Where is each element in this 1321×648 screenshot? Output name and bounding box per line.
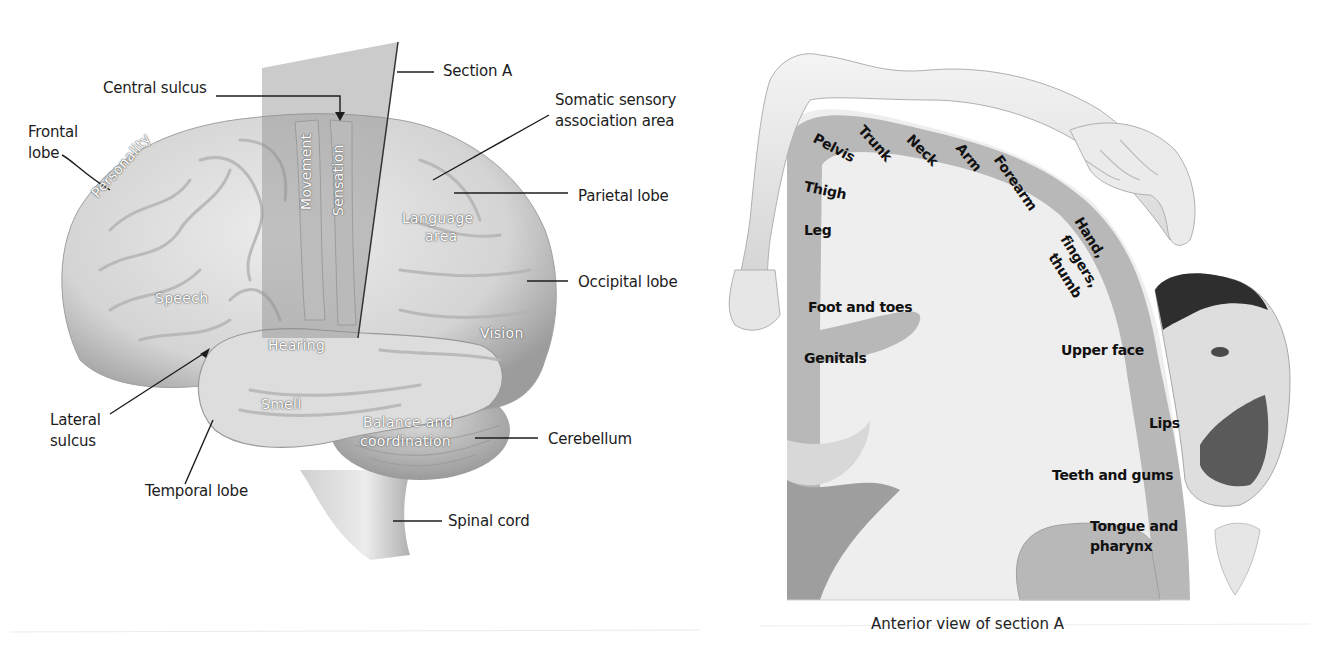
- homunculus-tongue-line2: pharynx: [1090, 538, 1152, 554]
- region-language-line2: area: [425, 228, 457, 244]
- region-speech: Speech: [155, 290, 208, 306]
- label-lateral-sulcus-line1: Lateral: [50, 411, 101, 429]
- label-cerebellum: Cerebellum: [548, 430, 632, 448]
- label-occipital-lobe: Occipital lobe: [578, 273, 677, 291]
- homunculus-foot-and-toes: Foot and toes: [808, 299, 912, 315]
- label-somatic-sensory-line1: Somatic sensory: [555, 91, 676, 109]
- homunculus-upper-face: Upper face: [1061, 342, 1144, 358]
- figure-caption: Anterior view of section A: [871, 615, 1064, 633]
- region-movement: Movement: [298, 133, 314, 210]
- label-central-sulcus: Central sulcus: [103, 79, 207, 97]
- label-frontal-lobe-line2: lobe: [28, 144, 59, 162]
- region-smell: Smell: [261, 396, 301, 412]
- label-lateral-sulcus-line2: sulcus: [50, 432, 96, 450]
- homunculus-teeth-and-gums: Teeth and gums: [1052, 467, 1173, 483]
- homunculus-genitals: Genitals: [804, 350, 867, 366]
- label-frontal-lobe-line1: Frontal: [28, 123, 78, 141]
- region-language-line1: Language: [402, 210, 474, 226]
- label-temporal-lobe: Temporal lobe: [145, 482, 248, 500]
- region-balance-line1: Balance and: [363, 414, 453, 430]
- label-somatic-sensory-line2: association area: [555, 112, 674, 130]
- homunculus-tongue-line1: Tongue and: [1090, 518, 1178, 534]
- region-balance-line2: coordination: [360, 433, 451, 449]
- region-vision: Vision: [480, 325, 524, 341]
- brain-diagram-figure: Central sulcus Section A Somatic sensory…: [0, 0, 1321, 648]
- region-hearing: Hearing: [268, 337, 325, 353]
- label-section-a: Section A: [443, 62, 512, 80]
- region-sensation: Sensation: [330, 144, 346, 216]
- label-parietal-lobe: Parietal lobe: [578, 187, 669, 205]
- label-spinal-cord: Spinal cord: [448, 512, 530, 530]
- homunculus-lips: Lips: [1149, 415, 1180, 431]
- homunculus-leg: Leg: [804, 222, 832, 238]
